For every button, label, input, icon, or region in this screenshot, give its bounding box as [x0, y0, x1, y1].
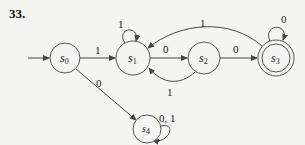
- state-s0: s0: [50, 43, 80, 73]
- state-s2: s2: [188, 42, 220, 74]
- problem-number: 33.: [9, 6, 25, 21]
- edge-label-s4-self: 0, 1: [159, 112, 176, 124]
- edge-label-s1-self: 1: [118, 18, 124, 30]
- state-s3-accepting: s3: [258, 40, 294, 76]
- edge-s0-s4: [76, 69, 136, 120]
- edge-label-s2-s1: 1: [167, 86, 173, 98]
- edge-label-s1-s2: 0: [163, 43, 169, 55]
- state-s1: s1: [116, 41, 150, 75]
- edge-label-s3-self: 0: [281, 13, 287, 25]
- state-diagram: 33. 1 0 1 0 1 0 1 0 0, 1 s0 s1 s2 s3: [0, 0, 305, 145]
- edge-label-s2-s3: 0: [233, 43, 239, 55]
- state-s4: s4: [133, 115, 161, 143]
- edge-label-s3-s1: 1: [200, 17, 206, 29]
- edge-label-s0-s4: 0: [96, 77, 102, 89]
- edge-s2-s1: [149, 68, 195, 81]
- edge-label-s0-s1: 1: [95, 44, 101, 56]
- edge-s3-self: [269, 27, 285, 41]
